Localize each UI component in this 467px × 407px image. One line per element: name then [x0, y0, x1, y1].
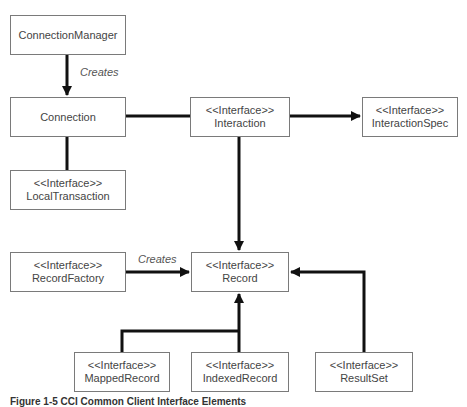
node-interaction-spec: <<Interface>> InteractionSpec [362, 97, 458, 137]
node-stereotype: <<Interface>> [376, 104, 445, 117]
node-name: IndexedRecord [203, 372, 278, 385]
node-name: ConnectionManager [18, 29, 117, 42]
node-stereotype: <<Interface>> [34, 177, 103, 190]
node-mapped-record: <<Interface>> MappedRecord [74, 352, 170, 392]
node-name: Record [222, 272, 257, 285]
node-stereotype: <<Interface>> [206, 259, 275, 272]
node-name: RecordFactory [32, 272, 104, 285]
node-name: MappedRecord [84, 372, 159, 385]
edge-label-creates-connection: Creates [80, 66, 119, 78]
node-record-factory: <<Interface>> RecordFactory [10, 252, 126, 292]
node-name: LocalTransaction [26, 190, 109, 203]
node-indexed-record: <<Interface>> IndexedRecord [191, 352, 289, 392]
edge-label-creates-record: Creates [138, 253, 177, 265]
node-name: Connection [40, 111, 96, 124]
edge-mappedrecord-record [122, 331, 239, 352]
edge-resultset-record [291, 272, 364, 352]
node-record: <<Interface>> Record [191, 252, 289, 292]
node-name: InteractionSpec [372, 117, 448, 130]
node-result-set: <<Interface>> ResultSet [315, 352, 413, 392]
node-name: ResultSet [340, 372, 388, 385]
node-connection-manager: ConnectionManager [10, 15, 126, 55]
node-connection: Connection [10, 97, 126, 137]
node-stereotype: <<Interface>> [88, 359, 157, 372]
node-stereotype: <<Interface>> [206, 359, 275, 372]
node-local-transaction: <<Interface>> LocalTransaction [10, 170, 126, 210]
node-stereotype: <<Interface>> [34, 259, 103, 272]
node-stereotype: <<Interface>> [330, 359, 399, 372]
node-interaction: <<Interface>> Interaction [190, 97, 290, 137]
node-stereotype: <<Interface>> [206, 104, 275, 117]
node-name: Interaction [214, 117, 265, 130]
figure-caption: Figure 1-5 CCI Common Client Interface E… [10, 396, 246, 407]
